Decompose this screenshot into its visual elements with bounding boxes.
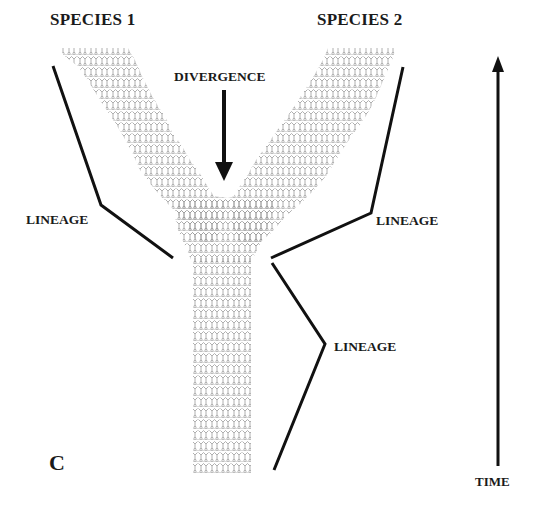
lineage-label-trunk: LINEAGE bbox=[334, 340, 396, 354]
time-axis-label: TIME bbox=[475, 475, 510, 488]
divergence-band bbox=[174, 200, 276, 262]
ancestral-trunk bbox=[193, 258, 251, 474]
lineage-bracket-trunk bbox=[272, 263, 325, 470]
species-1-label: SPECIES 1 bbox=[50, 11, 135, 28]
population-lattice bbox=[60, 48, 396, 474]
arrow-down-icon bbox=[215, 90, 233, 181]
species-2-label: SPECIES 2 bbox=[317, 11, 402, 28]
panel-label: C bbox=[49, 452, 65, 474]
arrow-up-icon bbox=[492, 56, 504, 466]
lineage-label-right: LINEAGE bbox=[376, 214, 438, 228]
divergence-label: DIVERGENCE bbox=[174, 70, 266, 84]
diagram-canvas bbox=[0, 0, 546, 506]
speciation-diagram: SPECIES 1 SPECIES 2 DIVERGENCE LINEAGE L… bbox=[0, 0, 546, 506]
lineage-label-left: LINEAGE bbox=[26, 213, 88, 227]
